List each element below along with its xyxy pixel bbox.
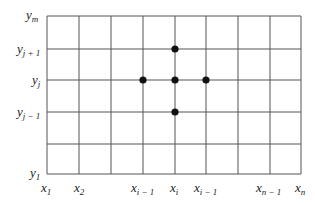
y-axis-label-2: yj + 1 xyxy=(17,42,40,60)
label-subscript: i xyxy=(176,187,179,197)
label-subscript: j − 1 xyxy=(23,111,41,121)
x-axis-label-7: xn xyxy=(295,181,305,199)
y-axis-label-3: yj xyxy=(32,73,40,91)
x-axis-label-6: xn − 1 xyxy=(256,181,281,199)
x-axis-label-3: xi − 1 xyxy=(131,181,154,199)
x-axis-label-2: x2 xyxy=(74,181,84,199)
grid-lines xyxy=(47,16,301,174)
grid-diagram xyxy=(0,0,315,204)
x-axis-label-4: xi xyxy=(170,181,178,199)
label-subscript: i − 1 xyxy=(200,187,218,197)
node-i-jminus1 xyxy=(171,108,178,115)
label-subscript: i − 1 xyxy=(137,187,155,197)
y-axis-label-4: yj − 1 xyxy=(17,105,40,123)
y-axis-label-1: ym xyxy=(26,8,38,26)
label-subscript: 1 xyxy=(47,187,52,197)
label-subscript: 1 xyxy=(36,172,41,182)
node-i-j xyxy=(171,76,178,83)
x-axis-label-1: x1 xyxy=(41,181,51,199)
label-subscript: j + 1 xyxy=(23,48,41,58)
label-subscript: n xyxy=(301,187,306,197)
node-i-jplus1 xyxy=(171,45,178,52)
node-iminus1-j xyxy=(139,76,146,83)
y-axis-label-5: y1 xyxy=(30,166,40,184)
x-axis-label-5: xi − 1 xyxy=(194,181,217,199)
label-subscript: j xyxy=(38,79,41,89)
node-iplus1-j xyxy=(202,76,209,83)
label-subscript: n − 1 xyxy=(262,187,282,197)
label-subscript: m xyxy=(32,14,39,24)
label-subscript: 2 xyxy=(80,187,85,197)
